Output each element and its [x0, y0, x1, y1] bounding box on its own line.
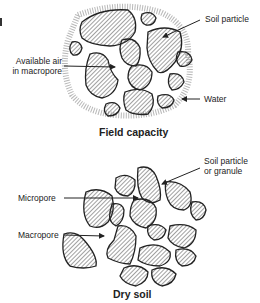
- panel-title-dry-soil: Dry soil: [113, 288, 152, 300]
- label-soil-particle: Soil particle: [205, 14, 249, 24]
- label-micropore: Micropore: [18, 193, 56, 203]
- label-soil-particle-granule-line1: Soil particle: [204, 156, 248, 166]
- field-capacity-particles: [70, 10, 192, 116]
- label-available-air-line2: in macropore: [10, 66, 62, 76]
- label-available-air: Available air in macropore: [10, 56, 62, 76]
- soil-diagram: [0, 0, 260, 303]
- dry-soil-particles: [63, 167, 206, 286]
- panel-title-field-capacity: Field capacity: [99, 126, 168, 138]
- label-macropore: Macropore: [18, 230, 59, 240]
- label-available-air-line1: Available air: [10, 56, 62, 66]
- label-water: Water: [204, 94, 226, 104]
- label-soil-particle-granule-line2: or granule: [204, 166, 248, 176]
- label-soil-particle-granule: Soil particle or granule: [204, 156, 248, 176]
